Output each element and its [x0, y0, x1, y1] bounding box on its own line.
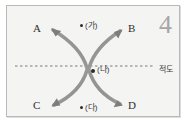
point-label-da: (다) — [85, 104, 97, 112]
corner-label-b: B — [128, 23, 135, 34]
point-label-ga: (가) — [85, 22, 97, 30]
corner-label-d: D — [128, 100, 136, 111]
arrow-curve-to-a — [53, 30, 87, 68]
diagram-page: A B C D (가) (나) (다) 적도 4 — [0, 0, 187, 128]
corner-label-a: A — [33, 23, 41, 34]
question-number-mark: 4 — [159, 12, 172, 38]
point-dot-ga — [80, 24, 83, 27]
diagram-frame: A B C D (가) (나) (다) 적도 4 — [6, 5, 180, 117]
diagram-stage: A B C D (가) (나) (다) 적도 4 — [7, 6, 179, 116]
arrow-curve-to-b — [89, 31, 120, 68]
point-dot-na — [91, 69, 95, 73]
equator-label: 적도 — [159, 66, 173, 74]
point-label-na: (나) — [97, 66, 109, 74]
corner-label-c: C — [33, 100, 40, 111]
arrow-curve-to-d — [89, 70, 120, 104]
arrow-curve-to-c — [54, 70, 87, 105]
point-dot-da — [80, 106, 83, 109]
